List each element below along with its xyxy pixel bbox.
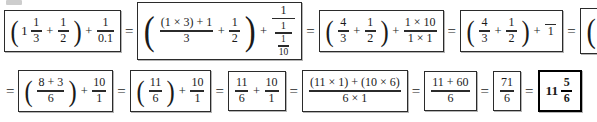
equals-sign: =	[444, 24, 460, 39]
group-paren-2: ( (1 × 3) + 1 3 + 1 2 )	[142, 11, 257, 51]
step-2-box: ( (1 × 3) + 1 3 + 1 2 ) +	[137, 2, 302, 60]
equals-sign: =	[521, 84, 537, 99]
fraction-ten-over-one: 10 1	[188, 76, 206, 105]
fraction-one-half: 1 2	[56, 16, 71, 45]
step-5-box: ( (4 × 2) + (1 × 3) 3 × 2 ) + 10 1	[580, 8, 597, 54]
equals-sign: =	[563, 24, 579, 39]
fraction-expanded-mixed: (1 × 3) + 1 3	[158, 16, 216, 45]
group-paren-3: ( 4 3 + 1 2 )	[324, 16, 390, 46]
equals-sign: =	[211, 84, 227, 99]
nested-fraction-inner: 1 10	[276, 34, 292, 58]
equals-sign: =	[408, 84, 424, 99]
fraction-four-thirds: 4 3	[477, 16, 492, 45]
final-answer-box: 11 5 6	[538, 70, 583, 112]
step-7-box: ( 11 6 ) + 10 1	[130, 70, 212, 112]
equals-sign: =	[113, 84, 129, 99]
nested-fraction-outer: 1 1 1 10	[270, 4, 298, 58]
step-10-box: 11 + 60 6	[424, 71, 476, 111]
step-9-box: (11 × 1) + (10 × 6) 6 × 1	[302, 70, 408, 112]
group-paren-6: ( 8 + 3 6 )	[23, 76, 78, 106]
step-11-box: 71 6	[493, 71, 521, 111]
equals-sign: =	[2, 84, 18, 99]
nested-fraction-middle: 1 1 10	[273, 20, 295, 58]
fraction-four-thirds: 4 3	[336, 16, 351, 45]
equals-sign: =	[286, 84, 302, 99]
fraction-cross-multiplied-final: (11 × 1) + (10 × 6) 6 × 1	[307, 76, 403, 105]
fraction-ten-over-one: 1	[543, 23, 558, 39]
fraction-ten-over-one: 10 1	[90, 76, 108, 105]
fraction-one-half: 1 2	[504, 16, 519, 45]
group-paren-1: ( 1 1 3 + 1 2	[9, 16, 83, 46]
final-mixed-number: 11 5 6	[546, 76, 575, 106]
step-3-box: ( 4 3 + 1 2 ) + 1	[319, 10, 444, 52]
group-paren-4: ( 4 3 + 1 2 )	[465, 16, 531, 46]
equation-row-2: = ( 8 + 3 6 ) + 10 1 =	[2, 63, 582, 119]
fraction-one-half: 1 2	[227, 16, 242, 45]
group-paren-7: ( 11 6 )	[135, 76, 177, 106]
fraction-seventy-one-sixths: 71 6	[498, 76, 516, 105]
equals-sign: =	[302, 24, 318, 39]
fraction-eight-plus-three-over-six: 8 + 3 6	[35, 76, 66, 105]
step-1-box: ( 1 1 3 + 1 2	[4, 10, 121, 52]
step-6-box: ( 8 + 3 6 ) + 10 1	[18, 70, 113, 112]
equals-sign: =	[121, 24, 137, 39]
fraction-ten-over-one-product: 1 × 10 1 × 1	[402, 16, 439, 45]
equals-sign: =	[477, 84, 493, 99]
equation-row-1: ( 1 1 3 + 1 2	[4, 2, 597, 60]
group-paren-5: ( (4 × 2) + (1 × 3) 3 × 2 )	[585, 14, 597, 48]
fraction-eleven-sixths: 11 6	[233, 76, 251, 105]
step-8-box: 11 6 + 10 1	[228, 71, 286, 111]
fraction-one-over-point-one: 1 0.1	[95, 16, 116, 45]
step-4-box: ( 4 3 + 1 2 ) +	[460, 10, 563, 52]
final-fraction: 5 6	[559, 76, 574, 106]
fraction-one-half: 1 2	[363, 16, 378, 45]
mixed-number-1: 1 1 3	[21, 16, 44, 45]
fraction-eleven-sixths: 11 6	[147, 76, 165, 105]
fraction-ten-over-one: 10 1	[263, 76, 281, 105]
fraction-eleven-plus-sixty-over-six: 11 + 60 6	[429, 76, 471, 105]
